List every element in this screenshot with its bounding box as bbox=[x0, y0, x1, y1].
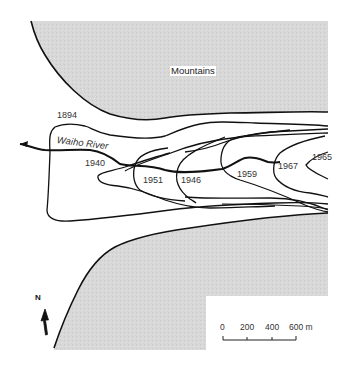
scale-tick-400: 400 bbox=[265, 323, 279, 332]
scale-tick-600: 600 m bbox=[289, 323, 313, 332]
year-label-1940: 1940 bbox=[85, 159, 105, 168]
year-label-1959: 1959 bbox=[237, 170, 257, 179]
mountains-label: Mountains bbox=[170, 66, 216, 76]
year-label-1894: 1894 bbox=[57, 111, 77, 120]
north-label: N bbox=[35, 294, 41, 302]
scale-bar bbox=[223, 336, 296, 340]
mountains-south-area bbox=[54, 213, 328, 350]
year-label-1946: 1946 bbox=[181, 176, 201, 185]
scale-tick-0: 0 bbox=[220, 323, 225, 332]
year-label-1965: 1965 bbox=[312, 153, 332, 162]
glacier-map bbox=[0, 0, 344, 367]
waiho-river-channel bbox=[20, 144, 280, 172]
year-label-1967: 1967 bbox=[278, 162, 298, 171]
year-label-1951: 1951 bbox=[143, 176, 163, 185]
river-flow-arrow-icon bbox=[20, 141, 28, 147]
north-arrow-icon bbox=[41, 309, 49, 335]
scale-tick-200: 200 bbox=[240, 323, 254, 332]
